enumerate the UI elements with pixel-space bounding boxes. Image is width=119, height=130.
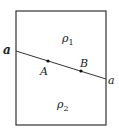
diagram-canvas: a a A B ρ1 ρ2 bbox=[0, 0, 119, 130]
region-lower-density: ρ2 bbox=[56, 98, 69, 113]
point-b-label: B bbox=[79, 57, 88, 70]
line-label-right: a bbox=[108, 74, 115, 87]
interface-line bbox=[16, 51, 106, 79]
point-a-dot bbox=[46, 59, 49, 62]
region-upper-density: ρ1 bbox=[61, 32, 74, 47]
point-a-label: A bbox=[39, 65, 48, 78]
line-label-left: a bbox=[3, 43, 11, 57]
